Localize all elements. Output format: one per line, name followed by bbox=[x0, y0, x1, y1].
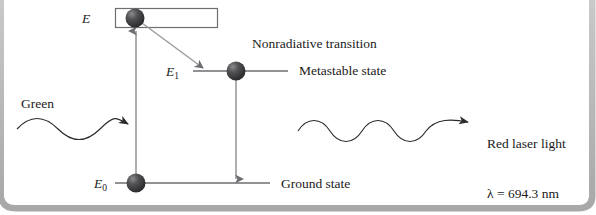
metastable-symbol-base: E bbox=[166, 64, 174, 79]
red-laser-wavelength: λ = 694.3 nm bbox=[487, 186, 566, 203]
electron-ground bbox=[127, 174, 146, 193]
green-light-label: Green bbox=[21, 96, 54, 111]
electron-excited bbox=[126, 9, 145, 28]
red-laser-light-title: Red laser light bbox=[487, 136, 566, 153]
metastable-state-label: Metastable state bbox=[299, 63, 386, 78]
ground-symbol-base: E bbox=[94, 176, 102, 191]
metastable-symbol-subscript: 1 bbox=[174, 71, 179, 81]
ground-symbol: E0 bbox=[94, 176, 107, 196]
nonradiative-transition-label: Nonradiative transition bbox=[252, 36, 377, 51]
laser-energy-level-diagram: E E1 E0 Nonradiative transition Metastab… bbox=[0, 0, 596, 215]
ground-state-label: Ground state bbox=[281, 176, 350, 191]
electron-metastable bbox=[227, 62, 246, 81]
ground-symbol-subscript: 0 bbox=[102, 183, 107, 193]
excited-band-symbol: E bbox=[82, 11, 90, 26]
red-laser-light-label: Red laser light λ = 694.3 nm bbox=[487, 103, 566, 215]
metastable-symbol: E1 bbox=[166, 64, 179, 84]
